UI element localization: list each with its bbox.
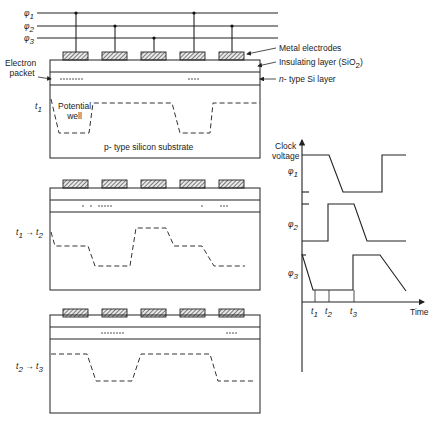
chart-phi1-label: φ1 [288,166,298,180]
n-type-layer-label: n- type Si layer [279,74,336,84]
potential-well-label: Potentialwell [58,101,91,121]
clock-voltage-label: Clockvoltage [272,141,299,161]
substrate-label: p- type silicon substrate [104,142,193,152]
panel-t1-to-t2 [50,180,260,290]
metal-electrodes-label: Metal electrodes [279,43,341,53]
t1-label: t1 [35,101,42,115]
phi3-waveform [302,254,406,291]
electrodes [63,52,244,60]
tick-t1-label: t1 [311,306,318,320]
electron-packet-label: Electronpacket [5,58,36,78]
t2-to-t3-label: t2 → t3 [16,361,43,375]
electron-packet [60,78,198,79]
time-axis-label: Time [410,307,429,317]
tick-t2-label: t2 [325,306,332,320]
phi1-waveform [302,155,406,192]
chart-phi2-label: φ2 [288,219,298,233]
tick-t3-label: t3 [350,306,357,320]
chart-phi3-label: φ3 [288,268,298,282]
timing-chart [302,140,424,372]
panel-t2-to-t3 [50,309,260,413]
ccd-diagram [0,0,436,425]
t1-to-t2-label: t1 → t2 [16,227,43,241]
clock-bus [37,13,278,52]
phi3-bus-label: φ3 [24,33,34,47]
phi2-waveform [302,204,406,241]
insulating-layer-label: Insulating layer (SiO2) [279,57,363,71]
phi1-bus-label: φ1 [24,8,34,22]
